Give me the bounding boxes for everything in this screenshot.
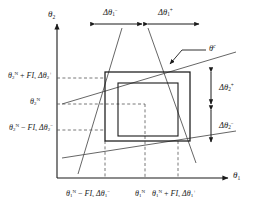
span-label-delta-theta2-plus: Δθ2+: [219, 83, 234, 92]
y-tick-label-upper: θ2N + FIs Δθ2+: [8, 72, 52, 80]
callout-label-theta-c: θc: [209, 44, 216, 53]
tolerance-boxes: [105, 72, 190, 141]
x-tick-label-nominal: θ1N: [135, 189, 145, 198]
x-tick-label-right: θ1N + FIs Δθ1+: [152, 189, 196, 198]
x-axis-label: θ1: [233, 171, 240, 180]
constraint-line-lower: [62, 131, 236, 158]
figure-canvas: θ2 θ1 θ2N + FIs Δθ2+ θ2N θ2N − FIs Δθ2− …: [0, 0, 264, 212]
inner-tolerance-box: [118, 83, 178, 136]
y-axis-label-sub: 2: [52, 14, 55, 20]
constraint-line-steep-right: [148, 28, 196, 163]
x-axis-label-sub: 1: [237, 175, 240, 181]
y-tick-label-nominal: θ2N: [30, 98, 40, 106]
x-tick-label-left: θ1N − FIs Δθ1−: [66, 189, 110, 198]
diagram-vector-layer: [0, 0, 264, 212]
span-label-delta-theta2-minus: Δθ2−: [219, 121, 234, 130]
span-label-delta-theta1-minus: Δθ1−: [103, 8, 118, 17]
span-label-delta-theta1-plus: Δθ1+: [158, 8, 173, 17]
callout-leader-line: [170, 50, 206, 64]
y-tick-label-lower: θ2N − FIs Δθ2−: [9, 124, 53, 132]
y-axis-label: θ2: [48, 10, 55, 19]
constraint-line-upper: [62, 52, 236, 104]
callout-leader: [170, 50, 206, 64]
